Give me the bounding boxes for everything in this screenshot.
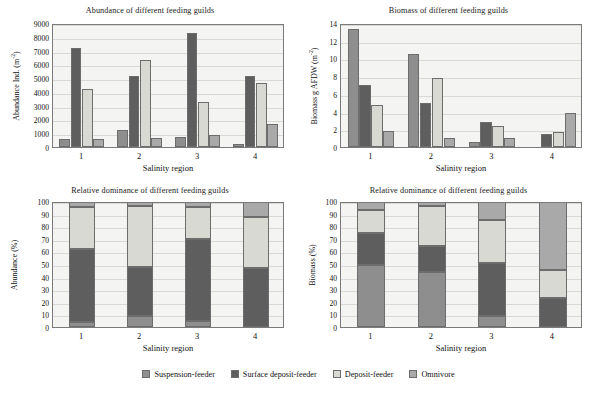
- y-tick-label: 0: [323, 144, 337, 153]
- y-axis-ticks: 02468101214: [323, 6, 337, 184]
- bar: [492, 126, 503, 147]
- x-tick-label: 2: [137, 331, 141, 341]
- x-tick-label: 3: [489, 331, 493, 341]
- bar: [117, 130, 128, 147]
- plot-area: [340, 24, 582, 148]
- stacked-segment: [185, 202, 212, 207]
- y-tick-label: 20: [317, 298, 337, 307]
- x-axis-ticks: 1234: [340, 151, 582, 163]
- stacked-segment: [185, 321, 212, 327]
- stacked-segment: [418, 272, 446, 327]
- y-tick-label: 0: [27, 324, 49, 333]
- stacked-segment: [478, 202, 506, 220]
- legend-swatch: [409, 370, 417, 378]
- y-tick-label: 6: [323, 90, 337, 99]
- legend-label: Surface deposit-feeder: [243, 370, 317, 379]
- legend-swatch: [231, 370, 239, 378]
- legend-item: Suspension-feeder: [142, 370, 214, 379]
- bar: [175, 137, 186, 147]
- bar: [233, 144, 244, 147]
- y-tick-label: 8: [323, 73, 337, 82]
- y-tick-label: 5000: [23, 75, 49, 84]
- y-tick-label: 50: [27, 261, 49, 270]
- stacked-segment: [539, 202, 567, 270]
- legend-swatch: [142, 370, 150, 378]
- x-tick-label: 2: [429, 151, 433, 161]
- stacked-segment: [69, 249, 96, 322]
- bar: [198, 102, 209, 147]
- y-tick-label: 100: [317, 198, 337, 207]
- bar: [469, 142, 480, 147]
- figure-feeding-guilds: Abundance of different feeding guildsAbu…: [0, 0, 597, 398]
- x-tick-label: 1: [368, 331, 372, 341]
- y-tick-label: 70: [27, 235, 49, 244]
- gridline: [341, 96, 581, 97]
- stacked-segment: [539, 270, 567, 298]
- stacked-segment: [243, 268, 270, 327]
- gridline: [341, 25, 581, 26]
- x-tick-label: 2: [429, 331, 433, 341]
- stacked-segment: [357, 233, 385, 266]
- stacked-segment: [127, 316, 154, 327]
- bar: [408, 54, 419, 147]
- x-axis-label: Salinity region: [52, 163, 284, 173]
- bar: [187, 33, 198, 147]
- stacked-segment: [418, 202, 446, 206]
- x-axis-label: Salinity region: [340, 163, 582, 173]
- y-tick-label: 60: [27, 248, 49, 257]
- gridline: [53, 25, 283, 26]
- y-tick-label: 40: [27, 273, 49, 282]
- bar: [71, 48, 82, 147]
- stacked-segment: [127, 267, 154, 316]
- y-axis-label: Biomass (%): [308, 202, 317, 328]
- x-tick-label: 1: [368, 151, 372, 161]
- y-tick-label: 10: [27, 311, 49, 320]
- bar: [93, 139, 104, 147]
- y-tick-label: 8000: [23, 33, 49, 42]
- legend-item: Surface deposit-feeder: [231, 370, 317, 379]
- legend-item: Deposit-feeder: [333, 370, 394, 379]
- y-tick-label: 3000: [23, 102, 49, 111]
- y-axis-label: Biomass g AFDW (m-2): [308, 24, 319, 148]
- gridline: [341, 43, 581, 44]
- y-tick-label: 10: [323, 55, 337, 64]
- bar: [256, 83, 267, 147]
- x-axis-label: Salinity region: [340, 343, 582, 353]
- plot-area: [340, 202, 582, 328]
- bar: [371, 105, 382, 148]
- panel-relative-biomass: Relative dominance of different feeding …: [300, 186, 597, 361]
- y-tick-label: 14: [323, 20, 337, 29]
- y-tick-label: 20: [27, 298, 49, 307]
- y-tick-label: 40: [317, 273, 337, 282]
- bar: [140, 60, 151, 147]
- legend: Suspension-feederSurface deposit-feederD…: [0, 366, 597, 382]
- chart-title: Biomass of different feeding guilds: [300, 6, 597, 15]
- y-axis-ticks: 0102030405060708090100: [27, 186, 49, 361]
- bar: [129, 76, 140, 147]
- stacked-segment: [478, 316, 506, 327]
- y-tick-label: 2: [323, 126, 337, 135]
- stacked-segment: [418, 206, 446, 246]
- x-tick-label: 1: [79, 331, 83, 341]
- bar: [504, 138, 515, 147]
- y-axis-label: Abundance (%): [10, 202, 19, 328]
- x-tick-label: 1: [79, 151, 83, 161]
- stacked-segment: [357, 202, 385, 210]
- y-tick-label: 7000: [23, 47, 49, 56]
- x-tick-label: 3: [195, 331, 199, 341]
- bar: [348, 29, 359, 147]
- stacked-segment: [357, 265, 385, 327]
- y-tick-label: 0: [317, 324, 337, 333]
- bar: [541, 134, 552, 147]
- y-axis-ticks: 0100020003000400050006000700080009000: [23, 6, 49, 184]
- y-tick-label: 4: [323, 108, 337, 117]
- bar: [267, 124, 278, 147]
- stacked-segment: [185, 239, 212, 321]
- y-axis-ticks: 0102030405060708090100: [317, 186, 337, 361]
- stacked-segment: [243, 217, 270, 267]
- x-tick-label: 3: [195, 151, 199, 161]
- stacked-segment: [69, 322, 96, 327]
- x-axis-ticks: 1234: [52, 151, 284, 163]
- stacked-segment: [418, 246, 446, 271]
- bar: [420, 103, 431, 147]
